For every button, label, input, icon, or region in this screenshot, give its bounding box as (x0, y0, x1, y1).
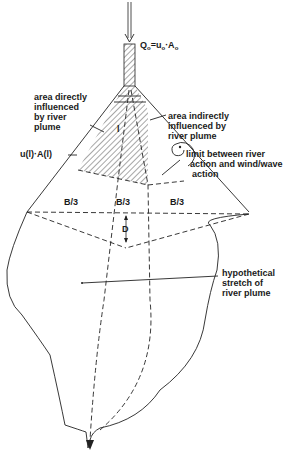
l-marker-label: l (117, 124, 120, 134)
svg-text:by river: by river (34, 112, 67, 122)
indirect-area-label: area indirectly influenced by river plum… (168, 111, 229, 141)
svg-text:river plume: river plume (222, 288, 271, 298)
d-label: D (122, 224, 129, 234)
svg-text:area indirectly: area indirectly (168, 111, 229, 121)
svg-text:action: action (192, 169, 219, 179)
river-channel (124, 44, 135, 86)
svg-text:area directly: area directly (34, 92, 87, 102)
inflow-arrow-icon (125, 2, 134, 42)
estuary-outline (7, 212, 249, 448)
river-plume-diagram: Qo=uo·Ao area directly influenced by riv… (0, 0, 302, 467)
svg-text:plume: plume (34, 122, 61, 132)
limit-label: limit between river action and wind/wave… (186, 149, 283, 179)
b-third-label-3: B/3 (170, 197, 184, 207)
direct-area-label: area directly influenced by river plume (34, 92, 87, 132)
inflow-label: Qo=uo·Ao (140, 40, 179, 51)
stretch-label: hypothetical stretch of river plume (222, 268, 275, 298)
svg-text:stretch of: stretch of (222, 278, 264, 288)
svg-text:limit between river: limit between river (186, 149, 266, 159)
width-line (27, 212, 249, 214)
svg-text:hypothetical: hypothetical (222, 268, 275, 278)
svg-text:influenced by: influenced by (168, 121, 226, 131)
u-a-label: u(l)·A(l) (20, 149, 52, 159)
svg-text:influenced: influenced (34, 102, 79, 112)
b-third-label-2: B/3 (116, 197, 130, 207)
b-third-label-1: B/3 (64, 197, 78, 207)
svg-text:river plume: river plume (168, 131, 217, 141)
svg-text:action and wind/wave: action and wind/wave (190, 159, 283, 169)
